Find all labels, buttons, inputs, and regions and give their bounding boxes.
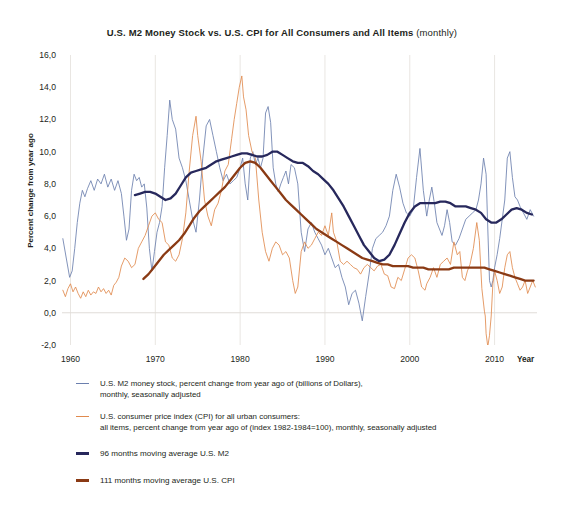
x-tick-label: 1970 bbox=[125, 354, 185, 364]
x-tick-label: 2010 bbox=[465, 354, 525, 364]
x-tick-label: 1960 bbox=[40, 354, 100, 364]
y-tick-label: 16,0 bbox=[18, 50, 56, 60]
legend-entry: 111 months moving average U.S. CPI bbox=[76, 475, 546, 486]
chart-page: U.S. M2 Money Stock vs. U.S. CPI for All… bbox=[0, 0, 564, 529]
series-line-cpi_ma bbox=[143, 161, 533, 280]
legend-label-line2: all items, percent change from year ago … bbox=[100, 422, 546, 433]
y-tick-label: 0,0 bbox=[18, 308, 56, 318]
legend-entry: U.S. M2 money stock, percent change from… bbox=[76, 378, 546, 401]
y-axis-title: Percent change from year ago bbox=[26, 121, 35, 261]
legend-label-line1: 96 months moving average U.S. M2 bbox=[100, 448, 546, 459]
x-tick-label: 2000 bbox=[380, 354, 440, 364]
legend-label: U.S. M2 money stock, percent change from… bbox=[100, 378, 546, 401]
y-tick-label: 8,0 bbox=[18, 179, 56, 189]
legend-entry: 96 months moving average U.S. M2 bbox=[76, 448, 546, 459]
chart-series-layer bbox=[63, 76, 535, 345]
y-tick-label: 6,0 bbox=[18, 211, 56, 221]
chart-gridlines bbox=[62, 55, 537, 345]
legend-swatch-cpi_ma bbox=[76, 479, 89, 482]
series-line-cpi bbox=[63, 76, 535, 345]
legend-label-line2: monthly, seasonally adjusted bbox=[100, 389, 546, 400]
legend-label: 111 months moving average U.S. CPI bbox=[100, 475, 546, 486]
legend-entry: U.S. consumer price index (CPI) for all … bbox=[76, 411, 546, 434]
y-tick-label: -2,0 bbox=[18, 340, 56, 350]
chart-title: U.S. M2 Money Stock vs. U.S. CPI for All… bbox=[0, 27, 564, 38]
x-tick-label: 1990 bbox=[295, 354, 355, 364]
chart-legend: U.S. M2 money stock, percent change from… bbox=[76, 378, 546, 502]
legend-label: U.S. consumer price index (CPI) for all … bbox=[100, 411, 546, 434]
legend-label: 96 months moving average U.S. M2 bbox=[100, 448, 546, 459]
legend-swatch-m2 bbox=[76, 383, 89, 384]
y-tick-label: 14,0 bbox=[18, 82, 56, 92]
y-tick-label: 12,0 bbox=[18, 114, 56, 124]
legend-swatch-cpi bbox=[76, 416, 89, 417]
legend-label-line1: U.S. consumer price index (CPI) for all … bbox=[100, 411, 546, 422]
legend-label-line1: 111 months moving average U.S. CPI bbox=[100, 475, 546, 486]
y-tick-label: 10,0 bbox=[18, 147, 56, 157]
chart-title-main: U.S. M2 Money Stock vs. U.S. CPI for All… bbox=[107, 27, 414, 38]
chart-title-suffix: (monthly) bbox=[416, 27, 457, 38]
series-line-m2_ma bbox=[135, 152, 532, 262]
y-tick-label: 4,0 bbox=[18, 243, 56, 253]
x-tick-label: 1980 bbox=[210, 354, 270, 364]
chart-plot-area bbox=[62, 55, 537, 345]
legend-swatch-m2_ma bbox=[76, 452, 89, 455]
x-axis-title: Year bbox=[517, 355, 534, 364]
y-tick-label: 2,0 bbox=[18, 276, 56, 286]
legend-label-line1: U.S. M2 money stock, percent change from… bbox=[100, 378, 546, 389]
